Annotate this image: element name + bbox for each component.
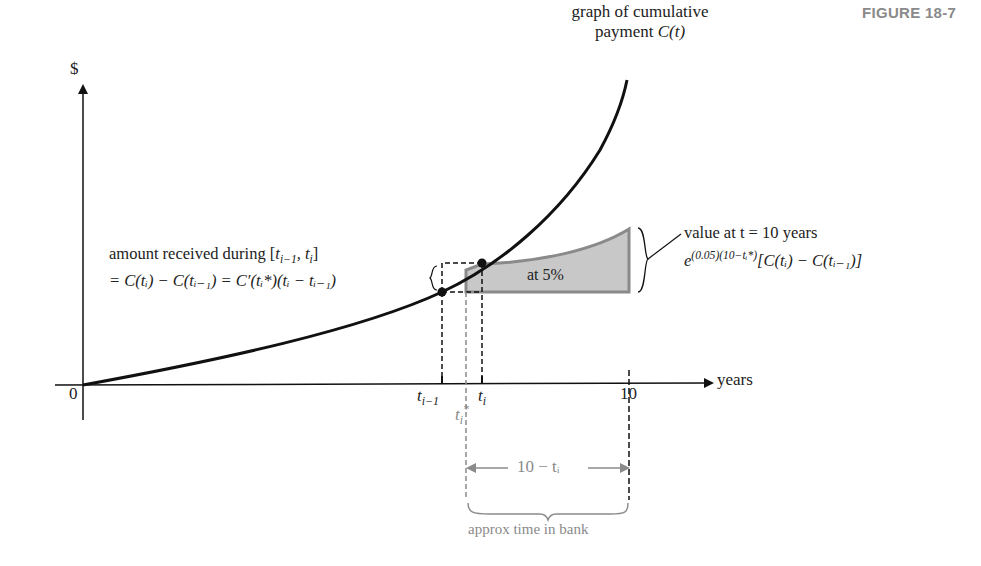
time-in-bank-label: approx time in bank xyxy=(468,521,588,538)
y-axis-label: $ xyxy=(70,59,79,79)
value-pointer-line xyxy=(648,234,681,259)
tick-label-t-star: ti* xyxy=(455,402,469,428)
figure-label: FIGURE 18-7 xyxy=(862,4,956,21)
amount-received-label: amount received during [ti−1, ti] = C(tᵢ… xyxy=(109,243,336,292)
tick-label-ten: 10 xyxy=(620,384,637,404)
origin-label: 0 xyxy=(69,384,78,404)
value-at-ten-label: value at t = 10 years e(0.05)(10−tᵢ*)[C(… xyxy=(684,222,862,272)
tick-label-t-prev: ti−1 xyxy=(417,386,439,409)
shaded-region-label: at 5% xyxy=(527,266,564,284)
small-brace xyxy=(430,266,437,290)
tick-label-t-i: ti xyxy=(478,386,486,409)
point-t-prev xyxy=(438,288,447,297)
cumulative-payment-curve xyxy=(83,80,627,385)
x-axis xyxy=(55,383,712,385)
curve-label: graph of cumulative payment C(t) xyxy=(540,2,740,42)
value-brace xyxy=(638,228,648,292)
time-in-bank-brace xyxy=(468,503,628,520)
x-axis-label: years xyxy=(717,370,753,390)
interval-label: 10 − tᵢ xyxy=(517,457,560,477)
point-t-i xyxy=(478,259,487,268)
